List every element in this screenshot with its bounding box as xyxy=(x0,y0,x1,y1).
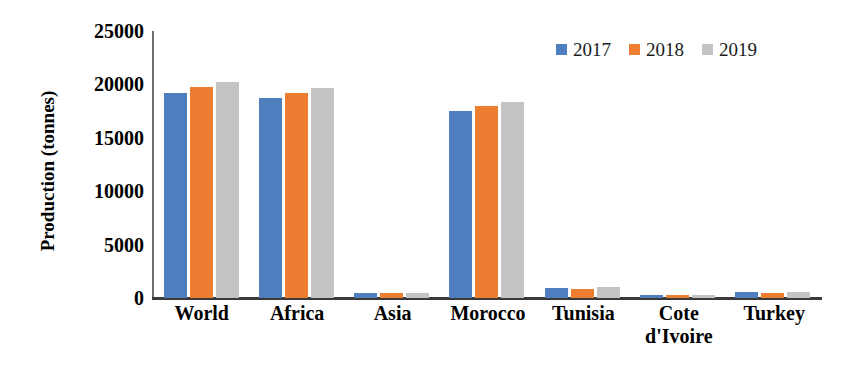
x-axis-label-africa: Africa xyxy=(249,302,344,325)
legend-label-2017: 2017 xyxy=(573,40,611,59)
bar-group-asia xyxy=(354,31,429,298)
bar-2018-asia[interactable] xyxy=(380,293,403,298)
bar-2017-tunisia[interactable] xyxy=(545,288,568,298)
legend-swatch-icon-2018 xyxy=(629,44,640,55)
x-axis-label-line: Cote xyxy=(631,302,726,325)
bar-2019-turkey[interactable] xyxy=(787,292,810,298)
x-axis-label-cote-d-ivoire: Coted'Ivoire xyxy=(631,302,726,348)
legend-label-2018: 2018 xyxy=(646,40,684,59)
bar-2019-africa[interactable] xyxy=(311,88,334,298)
bar-group-tunisia xyxy=(545,31,620,298)
bar-2018-morocco[interactable] xyxy=(475,106,498,298)
bar-2017-asia[interactable] xyxy=(354,293,377,298)
x-axis-label-turkey: Turkey xyxy=(727,302,822,325)
plot-area xyxy=(152,31,820,298)
x-axis-label-tunisia: Tunisia xyxy=(536,302,631,325)
legend-swatch-icon-2017 xyxy=(556,44,567,55)
x-axis-label-morocco: Morocco xyxy=(440,302,535,325)
legend-item-2018[interactable]: 2018 xyxy=(629,40,684,59)
x-axis-label-line: World xyxy=(154,302,249,325)
x-axis-label-world: World xyxy=(154,302,249,325)
y-axis-tick-5000: 5000 xyxy=(44,235,144,255)
bar-2017-turkey[interactable] xyxy=(735,292,758,298)
bar-group-morocco xyxy=(449,31,524,298)
bar-2018-tunisia[interactable] xyxy=(571,289,594,298)
bar-2019-morocco[interactable] xyxy=(501,102,524,299)
bar-2019-world[interactable] xyxy=(216,82,239,298)
bar-group-turkey xyxy=(735,31,810,298)
x-axis-label-asia: Asia xyxy=(345,302,440,325)
bar-group-cote-d-ivoire xyxy=(640,31,715,298)
bar-2017-morocco[interactable] xyxy=(449,111,472,298)
bar-2019-cote-d-ivoire[interactable] xyxy=(692,295,715,298)
x-axis-label-line: d'Ivoire xyxy=(631,325,726,348)
x-axis-label-line: Africa xyxy=(249,302,344,325)
bar-2019-tunisia[interactable] xyxy=(597,287,620,298)
y-axis-tick-20000: 20000 xyxy=(44,74,144,94)
bar-2017-africa[interactable] xyxy=(259,98,282,298)
x-axis-label-line: Asia xyxy=(345,302,440,325)
y-axis-tick-25000: 25000 xyxy=(44,21,144,41)
bar-2017-cote-d-ivoire[interactable] xyxy=(640,295,663,298)
bar-group-africa xyxy=(259,31,334,298)
bar-2018-africa[interactable] xyxy=(285,93,308,298)
legend-item-2019[interactable]: 2019 xyxy=(702,40,757,59)
bar-chart: Production (tonnes) 05000100001500020000… xyxy=(0,0,854,368)
x-axis-tick-labels: WorldAfricaAsiaMoroccoTunisiaCoted'Ivoir… xyxy=(154,302,822,366)
bar-2018-world[interactable] xyxy=(190,87,213,298)
y-axis-tick-labels: 0500010000150002000025000 xyxy=(44,0,144,368)
y-axis-tick-15000: 15000 xyxy=(44,128,144,148)
bar-2018-turkey[interactable] xyxy=(761,293,784,298)
bar-2017-world[interactable] xyxy=(164,93,187,298)
legend-item-2017[interactable]: 2017 xyxy=(556,40,611,59)
bar-group-world xyxy=(164,31,239,298)
bar-groups xyxy=(154,31,820,298)
x-axis-label-line: Turkey xyxy=(727,302,822,325)
chart-legend: 201720182019 xyxy=(556,40,757,59)
bar-2018-cote-d-ivoire[interactable] xyxy=(666,295,689,298)
legend-label-2019: 2019 xyxy=(719,40,757,59)
x-axis-label-line: Morocco xyxy=(440,302,535,325)
y-axis-tick-10000: 10000 xyxy=(44,181,144,201)
x-axis-label-line: Tunisia xyxy=(536,302,631,325)
bar-2019-asia[interactable] xyxy=(406,293,429,298)
y-axis-tick-0: 0 xyxy=(44,288,144,308)
legend-swatch-icon-2019 xyxy=(702,44,713,55)
